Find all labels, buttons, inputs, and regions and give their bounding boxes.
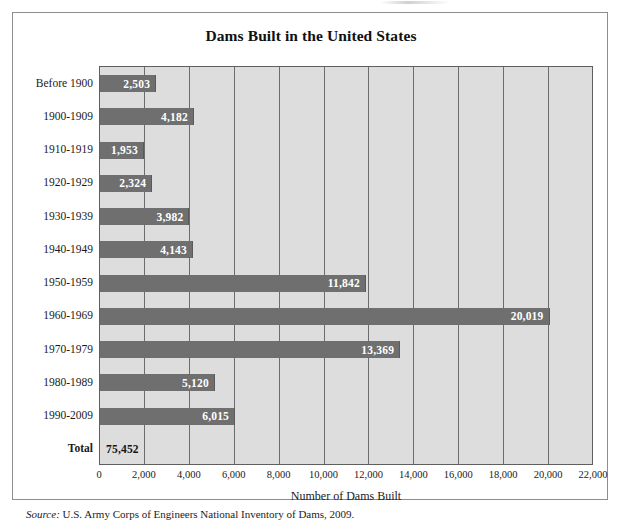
category-label: Before 1900 [36,77,93,89]
category-label: 1930-1939 [43,210,93,222]
bar-value-label: 2,503 [123,77,150,89]
bar-row: 2,503 [100,75,592,92]
category-label: 1920-1929 [43,176,93,188]
bar[interactable]: 13,369 [100,341,400,358]
x-axis-ticks: 02,0004,0006,0008,00010,00012,00014,0001… [99,469,593,485]
x-tick-label: 2,000 [132,469,156,480]
bar-rows: 2,5034,1821,9532,3243,9824,14311,84220,0… [100,67,592,464]
page-title: Dams Built in the United States [13,27,609,45]
category-label: 1910-1919 [43,143,93,155]
bar-row: 4,182 [100,108,592,125]
bar[interactable]: 6,015 [100,408,235,425]
bar[interactable]: 4,143 [100,241,193,258]
bar[interactable]: 1,953 [100,142,144,159]
bar-row: 5,120 [100,374,592,391]
bar-value-label: 3,982 [157,210,184,222]
source-note: Source: U.S. Army Corps of Engineers Nat… [26,508,354,520]
bar-value-label: 6,015 [202,410,229,422]
bar-value-label: 11,842 [328,277,360,289]
bar[interactable]: 2,324 [100,175,152,192]
x-tick-label: 20,000 [534,469,563,480]
figure-container: Dams Built in the United States 2,5034,1… [12,12,608,500]
x-tick-label: 14,000 [399,469,428,480]
x-tick-label: 6,000 [222,469,246,480]
category-label: 1980-1989 [43,376,93,388]
category-label: 1950-1959 [43,276,93,288]
category-label: 1940-1949 [43,243,93,255]
chart-plot: 2,5034,1821,9532,3243,9824,14311,84220,0… [99,66,593,465]
bar-row: 75,452 [100,441,592,458]
bar-value-label: 1,953 [111,144,138,156]
category-label: Total [68,442,93,454]
x-tick-label: 18,000 [489,469,518,480]
bar-value-label: 4,143 [160,244,187,256]
bar[interactable]: 5,120 [100,374,215,391]
source-label: Source: [26,508,60,520]
x-tick-label: 4,000 [177,469,201,480]
x-tick-label: 22,000 [579,469,608,480]
bar-value-label: 4,182 [161,111,188,123]
bar-row: 4,143 [100,241,592,258]
bar[interactable]: 20,019 [100,308,550,325]
x-axis-title: Number of Dams Built [99,489,593,504]
bar-value-label: 5,120 [182,377,209,389]
x-tick-label: 0 [96,469,101,480]
category-label: 1990-2009 [43,409,93,421]
bar-row: 20,019 [100,308,592,325]
page-top-edge [0,0,633,8]
bar[interactable]: 11,842 [100,275,366,292]
bar-row: 6,015 [100,408,592,425]
bar[interactable]: 3,982 [100,208,189,225]
bar[interactable]: 2,503 [100,75,156,92]
x-tick-label: 12,000 [354,469,383,480]
bar-row: 13,369 [100,341,592,358]
x-tick-label: 10,000 [309,469,338,480]
category-label: 1970-1979 [43,343,93,355]
category-label: 1960-1969 [43,309,93,321]
total-value-label: 75,452 [106,443,139,455]
bar-row: 3,982 [100,208,592,225]
bar-value-label: 2,324 [119,177,146,189]
bar-row: 2,324 [100,175,592,192]
category-axis-labels: Before 19001900-19091910-19191920-192919… [19,66,93,465]
source-text: U.S. Army Corps of Engineers National In… [63,508,355,520]
bar-row: 11,842 [100,275,592,292]
x-tick-label: 16,000 [444,469,473,480]
plot-area: 2,5034,1821,9532,3243,9824,14311,84220,0… [99,66,593,465]
bar-row: 1,953 [100,142,592,159]
bar-value-label: 13,369 [361,343,394,355]
bar[interactable]: 4,182 [100,108,194,125]
bar-value-label: 20,019 [511,310,544,322]
x-tick-label: 8,000 [267,469,291,480]
category-label: 1900-1909 [43,110,93,122]
